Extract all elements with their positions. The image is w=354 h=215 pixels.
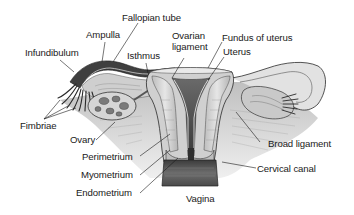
label-ovarian-ligament-line1: Ovarian	[172, 30, 205, 41]
label-myometrium: Myometrium	[81, 169, 133, 180]
label-vagina: Vagina	[186, 193, 215, 204]
vagina-shape	[162, 160, 218, 186]
label-broad-ligament: Broad ligament	[268, 138, 331, 149]
label-endometrium: Endometrium	[76, 187, 132, 198]
label-infundibulum: Infundibulum	[25, 47, 79, 58]
label-fimbriae: Fimbriae	[20, 120, 57, 131]
left-ovary	[88, 92, 136, 120]
label-ampulla: Ampulla	[86, 29, 120, 40]
label-uterus: Uterus	[223, 46, 251, 57]
label-cervical-canal: Cervical canal	[257, 163, 316, 174]
label-fundus-of-uterus: Fundus of uterus	[222, 32, 292, 43]
reproductive-anatomy-diagram: Fallopian tube Ampulla Infundibulum Ovar…	[0, 0, 354, 215]
label-ovary: Ovary	[70, 134, 95, 145]
cervical-canal-shape	[188, 148, 194, 160]
label-isthmus: Isthmus	[127, 50, 160, 61]
label-fallopian-tube: Fallopian tube	[122, 12, 181, 23]
label-ovarian-ligament-line2: ligament	[172, 41, 207, 52]
label-perimetrium: Perimetrium	[82, 151, 133, 162]
